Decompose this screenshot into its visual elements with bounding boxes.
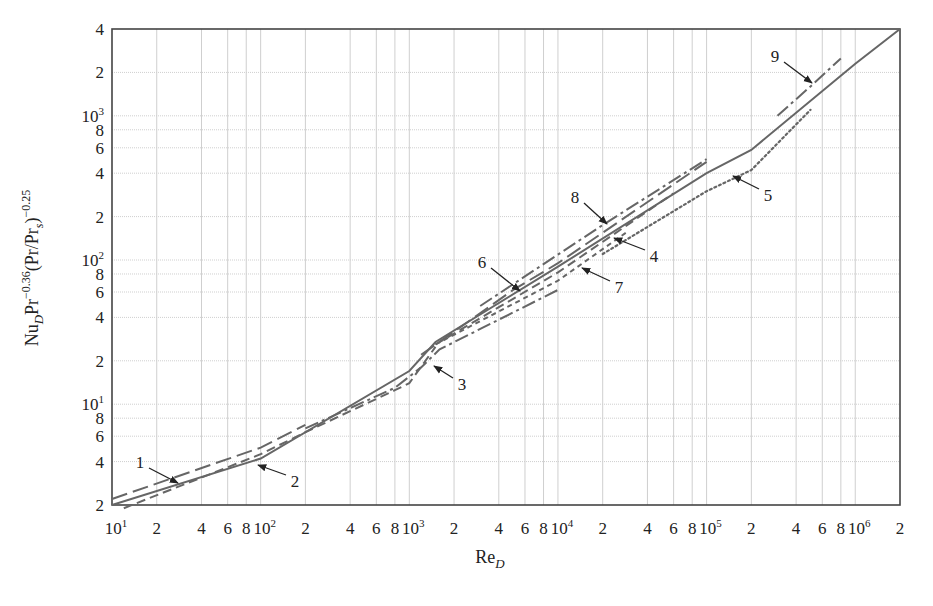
- y-axis-ticks: 24681012468102246810324: [82, 20, 105, 515]
- x-tick-label: 106: [848, 517, 871, 538]
- x-tick-label: 8: [539, 519, 548, 538]
- x-tick-label: 104: [551, 517, 574, 538]
- curve-label-2: 2: [291, 472, 300, 491]
- y-tick-label: 4: [96, 308, 105, 327]
- curve-label-9: 9: [771, 47, 780, 66]
- curve-annotations: 123456789: [136, 47, 812, 491]
- x-axis-ticks: 101246810224681032468104246810524681062: [105, 517, 905, 538]
- curve-2: [124, 347, 436, 508]
- x-tick-label: 4: [643, 519, 652, 538]
- x-tick-label: 103: [402, 517, 425, 538]
- x-tick-label: 2: [450, 519, 459, 538]
- x-axis-label: ReD: [475, 547, 505, 571]
- x-tick-label: 8: [242, 519, 251, 538]
- x-tick-label: 105: [699, 517, 722, 538]
- x-tick-label: 6: [223, 519, 232, 538]
- y-tick-label: 4: [96, 453, 105, 472]
- y-tick-label: 4: [96, 164, 105, 183]
- curve-label-3: 3: [458, 375, 467, 394]
- x-tick-label: 2: [152, 519, 161, 538]
- x-tick-label: 2: [896, 519, 905, 538]
- y-tick-label: 6: [96, 427, 105, 446]
- y-tick-label: 2: [96, 63, 105, 82]
- y-tick-label: 4: [96, 20, 105, 39]
- curve-3: [305, 290, 558, 429]
- y-tick-label: 2: [96, 208, 105, 227]
- x-tick-label: 4: [792, 519, 801, 538]
- x-tick-label: 4: [495, 519, 504, 538]
- curve-label-4: 4: [650, 247, 659, 266]
- curve-8: [480, 159, 706, 306]
- curve-label-5: 5: [764, 186, 773, 205]
- y-tick-label: 6: [96, 283, 105, 302]
- arrow-icon: [582, 268, 610, 281]
- arrow-icon: [491, 268, 520, 291]
- y-tick-label: 2: [96, 496, 105, 515]
- x-tick-label: 2: [598, 519, 607, 538]
- x-tick-label: 2: [747, 519, 756, 538]
- curve-label-8: 8: [571, 188, 580, 207]
- x-tick-label: 6: [372, 519, 381, 538]
- arrow-icon: [614, 238, 645, 250]
- x-tick-label: 4: [346, 519, 355, 538]
- curve-9: [778, 58, 841, 115]
- x-tick-label: 102: [253, 517, 276, 538]
- y-axis-label: NuDPr−0.36(Pr/Prs)−0.25: [19, 190, 46, 347]
- curve-label-6: 6: [478, 253, 487, 272]
- x-tick-label: 2: [301, 519, 310, 538]
- arrow-icon: [733, 176, 759, 189]
- plot-frame: [112, 29, 900, 505]
- arrow-icon: [258, 465, 286, 475]
- curve-6: [421, 162, 706, 355]
- grid-lines: [112, 29, 900, 505]
- x-tick-label: 8: [688, 519, 697, 538]
- x-tick-label: 8: [391, 519, 400, 538]
- x-tick-label: 6: [818, 519, 827, 538]
- curve-label-7: 7: [615, 278, 624, 297]
- x-tick-label: 6: [521, 519, 530, 538]
- curve-label-1: 1: [136, 453, 145, 472]
- chart-canvas: 123456789 101246810224681032468104246810…: [0, 0, 933, 606]
- curve-main-solid-: [112, 29, 900, 505]
- x-tick-label: 6: [669, 519, 678, 538]
- x-tick-label: 101: [105, 517, 128, 538]
- y-tick-label: 6: [96, 139, 105, 158]
- x-tick-label: 4: [197, 519, 206, 538]
- x-tick-label: 8: [837, 519, 846, 538]
- y-tick-label: 2: [96, 352, 105, 371]
- arrow-icon: [584, 203, 607, 224]
- arrow-icon: [434, 366, 453, 378]
